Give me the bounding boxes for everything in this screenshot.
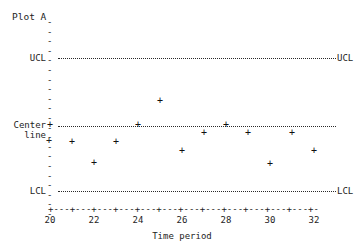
y-axis-tick: -: [47, 181, 52, 190]
y-axis-tick: -: [47, 37, 52, 46]
x-tick-label-28: 28: [221, 216, 232, 225]
y-axis-tick: -: [47, 66, 52, 75]
x-tick-label-20: 20: [45, 216, 56, 225]
data-point: +: [201, 128, 207, 138]
lcl-label-right: LCL: [337, 187, 353, 196]
data-point: +: [245, 128, 251, 138]
y-axis-origin-tick: +: [46, 136, 52, 145]
data-point: +: [289, 128, 295, 138]
data-point: +: [179, 146, 185, 156]
x-axis: +---+---+---+---+---+---+---+---+---+---…: [48, 205, 319, 214]
x-axis-title: Time period: [0, 231, 364, 241]
center-label-left-2: line: [0, 131, 46, 140]
x-tick-label-30: 30: [265, 216, 276, 225]
x-tick-label-22: 22: [89, 216, 100, 225]
x-tick-label-24: 24: [133, 216, 144, 225]
ucl-line: [58, 58, 336, 59]
data-point: +: [69, 137, 75, 147]
lcl-line: [58, 191, 336, 192]
lcl-label-left: LCL: [10, 187, 46, 196]
x-tick-labels: 20222426283032: [0, 216, 364, 228]
data-point: +: [135, 120, 141, 130]
center-label-left: Center: [0, 121, 46, 130]
ucl-label-right: UCL: [337, 54, 353, 63]
data-point: +: [311, 146, 317, 156]
page-title: Plot A: [12, 12, 46, 21]
ucl-label-left: UCL: [10, 54, 46, 63]
x-tick-label-32: 32: [309, 216, 320, 225]
data-point: +: [47, 120, 53, 130]
data-point: +: [91, 158, 97, 168]
data-point: +: [113, 137, 119, 147]
data-point: +: [157, 96, 163, 106]
x-tick-label-26: 26: [177, 216, 188, 225]
y-axis-tick: -: [47, 18, 52, 27]
y-axis-tick: -: [47, 85, 52, 94]
control-chart: Plot A ---------------------+ UCL Center…: [0, 0, 364, 250]
data-point: +: [267, 159, 273, 169]
data-point: +: [223, 120, 229, 130]
y-axis-tick: -: [47, 162, 52, 171]
